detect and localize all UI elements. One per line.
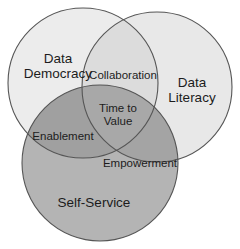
label-self-service: Self-Service [58,195,131,210]
venn-diagram: DataDemocracyDataLiteracySelf-ServiceCol… [0,0,240,249]
label-time-to-value: Time toValue [99,102,137,127]
venn-diagram-canvas: DataDemocracyDataLiteracySelf-ServiceCol… [0,0,240,249]
label-enablement: Enablement [32,130,94,142]
label-collaboration: Collaboration [89,69,157,81]
label-empowerment: Empowerment [103,157,178,169]
